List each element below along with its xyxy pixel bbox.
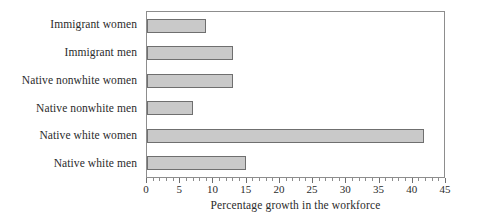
- category-label-native-white-women: Native white women: [0, 122, 142, 150]
- x-axis-minor-tick: [325, 178, 326, 181]
- x-axis-tick-label: 40: [406, 184, 417, 195]
- x-axis-title: Percentage growth in the workforce: [146, 200, 445, 212]
- x-axis-minor-tick: [239, 178, 240, 181]
- x-axis-minor-tick: [299, 178, 300, 181]
- bar-immigrant-men: [147, 46, 233, 60]
- x-axis-minor-tick: [418, 178, 419, 181]
- x-axis-minor-tick: [365, 178, 366, 181]
- x-axis-tick-label: 25: [307, 184, 318, 195]
- category-label-immigrant-men: Immigrant men: [0, 39, 142, 67]
- x-axis-minor-tick: [392, 178, 393, 181]
- x-axis-minor-tick: [332, 178, 333, 181]
- x-axis-minor-tick: [159, 178, 160, 181]
- x-axis-minor-tick: [339, 178, 340, 181]
- x-axis-minor-tick: [153, 178, 154, 181]
- x-axis-minor-tick: [425, 178, 426, 181]
- x-axis-tick-label: 10: [207, 184, 218, 195]
- x-axis-minor-tick: [385, 178, 386, 181]
- x-axis-minor-tick: [352, 178, 353, 181]
- category-label-native-nonwhite-women: Native nonwhite women: [0, 67, 142, 95]
- bar-slot: [147, 150, 444, 178]
- x-axis-minor-tick: [252, 178, 253, 181]
- plot-area: [146, 11, 445, 178]
- bar-slot: [147, 12, 444, 40]
- x-axis-minor-tick: [232, 178, 233, 181]
- bar-native-nonwhite-women: [147, 74, 233, 88]
- bar-slot: [147, 122, 444, 150]
- x-axis-tick-label: 5: [176, 184, 182, 195]
- x-axis-minor-tick: [166, 178, 167, 181]
- x-axis-minor-tick: [226, 178, 227, 181]
- x-axis-minor-tick: [359, 178, 360, 181]
- category-label-immigrant-women: Immigrant women: [0, 11, 142, 39]
- x-axis-minor-tick: [319, 178, 320, 181]
- x-axis-minor-tick: [286, 178, 287, 181]
- bar-native-nonwhite-men: [147, 101, 193, 115]
- x-axis-tick-label: 30: [340, 184, 351, 195]
- bar-native-white-men: [147, 156, 246, 170]
- category-axis: Immigrant women Immigrant men Native non…: [0, 11, 142, 178]
- x-axis-minor-tick: [372, 178, 373, 181]
- bar-slot: [147, 67, 444, 95]
- x-axis-minor-tick: [219, 178, 220, 181]
- x-axis-minor-tick: [398, 178, 399, 181]
- bars-layer: [147, 12, 444, 177]
- x-axis-minor-tick: [305, 178, 306, 181]
- x-axis-minor-tick: [438, 178, 439, 181]
- bar-immigrant-women: [147, 19, 206, 33]
- x-axis-tick-label: 0: [143, 184, 149, 195]
- x-axis-tick-label: 35: [373, 184, 384, 195]
- x-axis-minor-tick: [292, 178, 293, 181]
- x-axis-minor-tick: [173, 178, 174, 181]
- x-axis-minor-tick: [186, 178, 187, 181]
- bar-slot: [147, 40, 444, 68]
- value-axis: 051015202530354045: [146, 178, 445, 200]
- category-label-native-white-men: Native white men: [0, 150, 142, 178]
- x-axis-minor-tick: [405, 178, 406, 181]
- x-axis-minor-tick: [206, 178, 207, 181]
- x-axis-minor-tick: [259, 178, 260, 181]
- x-axis-minor-tick: [432, 178, 433, 181]
- x-axis-minor-tick: [272, 178, 273, 181]
- x-axis-tick-label: 15: [240, 184, 251, 195]
- bar-chart: Immigrant women Immigrant men Native non…: [0, 0, 477, 224]
- x-axis-tick-label: 20: [273, 184, 284, 195]
- x-axis-minor-tick: [266, 178, 267, 181]
- x-axis-minor-tick: [193, 178, 194, 181]
- category-label-native-nonwhite-men: Native nonwhite men: [0, 94, 142, 122]
- bar-native-white-women: [147, 129, 424, 143]
- x-axis-minor-tick: [199, 178, 200, 181]
- bar-slot: [147, 95, 444, 123]
- x-axis-tick-label: 45: [440, 184, 451, 195]
